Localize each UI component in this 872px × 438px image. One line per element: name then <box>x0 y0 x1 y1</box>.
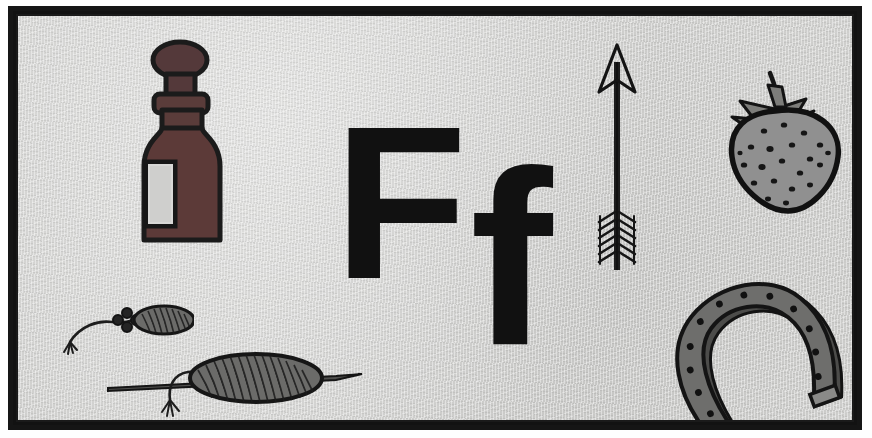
letter-lowercase-f: f <box>470 134 553 382</box>
letter-uppercase-F: F <box>334 94 463 312</box>
spindle-large-illustration <box>104 346 364 422</box>
flashcard-page: F f <box>0 0 872 438</box>
flask-label-patch <box>146 162 175 226</box>
strawberry-illustration <box>718 61 854 221</box>
spindle-small-tassel <box>64 342 77 354</box>
page-frame-inner: F f <box>16 14 854 422</box>
flask-illustration <box>128 34 248 254</box>
page-frame-outer: F f <box>8 6 862 430</box>
spindle-large-tassel <box>162 400 179 416</box>
arrow-illustration <box>588 40 648 280</box>
horseshoe-illustration <box>644 266 854 422</box>
